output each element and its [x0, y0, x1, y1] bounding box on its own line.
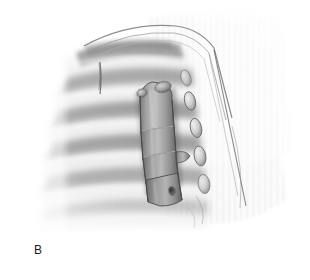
panel-label: B — [34, 244, 42, 256]
figure-panel: B — [0, 0, 310, 280]
medical-illustration — [0, 0, 310, 280]
